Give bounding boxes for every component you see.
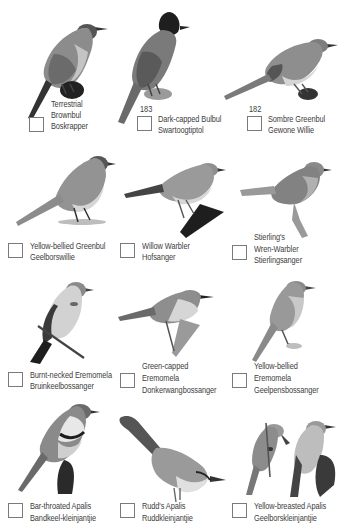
english-name: Yellow-bellied Greenbul <box>30 241 105 253</box>
english-name-line-1: Terrestrial <box>51 99 82 109</box>
english-name: Bar-throated Apalis <box>30 501 91 513</box>
sombre-greenbul-illustration <box>222 36 342 106</box>
english-name: Dark-capped Bulbul <box>158 114 221 126</box>
yellow-bellied-eremomela-illustration <box>248 276 320 366</box>
afrikaans-name: Geelborswillie <box>30 252 75 264</box>
checkbox-yellow-bellied-eremomela[interactable] <box>232 373 247 388</box>
english-name-line-2: Eremomela <box>254 373 291 385</box>
afrikaans-name: Swartoogtiptol <box>158 125 204 137</box>
checkbox-green-capped-eremomela[interactable] <box>120 373 135 388</box>
page-number: 182 <box>249 104 261 114</box>
afrikaans-name: Geelpensbossanger <box>254 385 319 397</box>
bar-throated-apalis-illustration <box>14 400 104 496</box>
rudds-apalis-illustration <box>116 410 228 502</box>
english-name: Willow Warbler <box>142 241 190 253</box>
english-name: Yellow-breasted Apalis <box>254 501 326 513</box>
english-name-line-1: Yellow-bellied <box>254 361 298 373</box>
afrikaans-name: Stierlingsanger <box>254 255 302 267</box>
afrikaans-name: Bandkeel-kleinjantjie <box>30 513 96 525</box>
english-name-line-1: Stierling's <box>254 232 285 244</box>
afrikaans-name: Boskrapper <box>51 121 88 133</box>
english-name-line-2: Eremomela <box>142 373 179 385</box>
yellow-breasted-apalis-illustration <box>240 415 342 499</box>
page-number: 183 <box>140 104 152 114</box>
afrikaans-name: Hofsanger <box>142 252 175 264</box>
burnt-necked-eremomela-illustration <box>28 278 98 368</box>
checkbox-terrestrial-brownbul[interactable] <box>29 117 44 132</box>
green-capped-eremomela-illustration <box>118 285 218 360</box>
checkbox-willow-warbler[interactable] <box>120 243 135 258</box>
english-name: Burnt-necked Eremomela <box>30 370 112 382</box>
checkbox-stierlings-wren-warbler[interactable] <box>232 245 247 260</box>
yellow-bellied-greenbul-illustration <box>10 150 118 230</box>
afrikaans-name: Gewone Willie <box>268 125 314 137</box>
afrikaans-name: Ruddkleinjantjie <box>142 513 193 525</box>
stierlings-wren-warbler-illustration <box>238 160 338 240</box>
willow-warbler-illustration <box>122 160 232 240</box>
checkbox-yellow-breasted-apalis[interactable] <box>232 503 247 518</box>
afrikaans-name: Donkerwangbossanger <box>142 385 216 397</box>
english-name: Sombre Greenbul <box>268 114 325 126</box>
english-name-line-2: Brownbul <box>51 110 81 122</box>
afrikaans-name: Geelborskleinjantjie <box>254 513 317 525</box>
checkbox-yellow-bellied-greenbul[interactable] <box>8 243 23 258</box>
checkbox-dark-capped-bulbul[interactable] <box>137 116 152 131</box>
english-name-line-1: Green-capped <box>142 361 188 373</box>
english-name-line-2: Wren-Warbler <box>254 244 299 256</box>
afrikaans-name: Bruinkeelbossanger <box>30 381 94 393</box>
english-name: Rudd's Apalis <box>142 501 185 513</box>
checkbox-sombre-greenbul[interactable] <box>247 116 262 131</box>
checkbox-burnt-necked-eremomela[interactable] <box>8 372 23 387</box>
checkbox-rudds-apalis[interactable] <box>120 503 135 518</box>
checkbox-bar-throated-apalis[interactable] <box>8 503 23 518</box>
english-name: Terrestrial <box>51 99 82 111</box>
